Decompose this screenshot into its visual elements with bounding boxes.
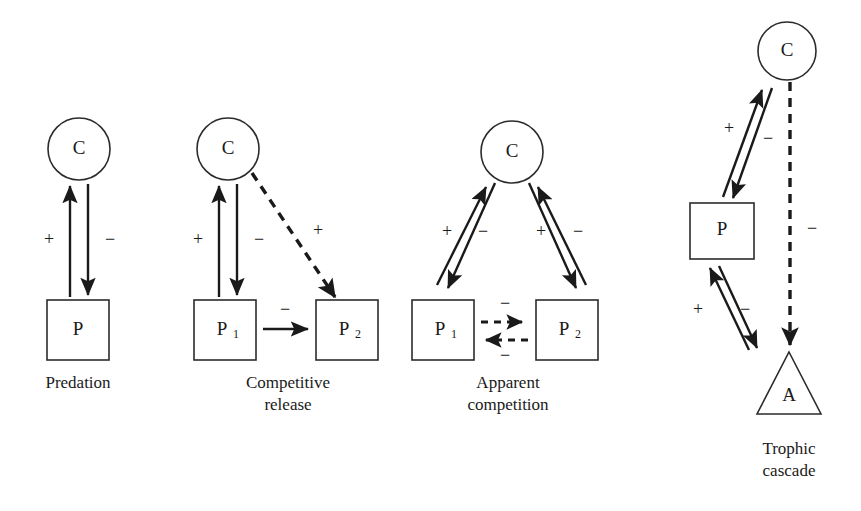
sign-negative-upper-cascade: − [763, 128, 773, 148]
node-consumer-competitive: C [197, 118, 259, 180]
node-label-prey1: P [217, 318, 228, 339]
caption-competitive-release-line2: release [264, 395, 311, 414]
node-subscript-prey1: 1 [233, 327, 239, 341]
node-autotroph-cascade: A [757, 352, 821, 414]
sign-negative-bottom-apparent: − [500, 345, 510, 365]
sign-negative-left-apparent: − [478, 221, 488, 241]
sign-negative-competitive: − [254, 229, 264, 249]
arrow-upright-solid [723, 90, 762, 197]
caption-apparent-competition-line2: competition [467, 395, 549, 414]
node-prey-predation: P [47, 300, 109, 360]
sign-negative-cascade-link: − [807, 218, 817, 238]
node-label-consumer: C [506, 140, 519, 161]
edge-predator-to-consumer-positive [723, 90, 762, 197]
panel-competitive-release: C + − + P 1 − P 2 Competitive release [193, 118, 378, 414]
sign-negative-lower-cascade: − [740, 299, 750, 319]
diagram-canvas: C + − P Predation C + − [0, 0, 861, 511]
sign-positive-lower-cascade: + [693, 299, 703, 319]
node-subscript-prey2: 2 [355, 327, 361, 341]
node-subscript-prey2: 2 [575, 327, 581, 341]
panel-trophic-cascade: C + − − P + − A Trophic cascad [690, 22, 821, 480]
node-prey2-apparent: P 2 [536, 300, 598, 360]
ecology-interaction-figure: C + − P Predation C + − [0, 0, 861, 511]
sign-positive-competitive: + [193, 229, 203, 249]
node-label-prey2: P [339, 318, 350, 339]
node-prey1-apparent: P 1 [412, 300, 474, 360]
edge-predator-to-autotroph-negative [719, 266, 757, 348]
node-subscript-prey1: 1 [451, 327, 457, 341]
sign-negative-right-apparent: − [573, 221, 583, 241]
node-consumer-apparent: C [481, 121, 543, 183]
node-prey2-competitive: P 2 [316, 300, 378, 360]
caption-predation: Predation [45, 373, 111, 392]
panel-predation: C + − P Predation [44, 118, 115, 392]
arrow-downright-solid [719, 266, 757, 348]
node-consumer-cascade: C [758, 22, 816, 80]
panel-apparent-competition: C + − + − P 1 − − [412, 121, 598, 414]
sign-positive-right-apparent: + [536, 221, 546, 241]
node-label-predator: P [717, 218, 728, 239]
sign-negative-competition-competitive: − [280, 299, 290, 319]
node-label-autotroph: A [782, 384, 796, 405]
node-prey1-competitive: P 1 [194, 300, 256, 360]
sign-negative-top-apparent: − [500, 293, 510, 313]
node-consumer-predation: C [48, 118, 110, 180]
node-label-prey2: P [559, 318, 570, 339]
node-label-prey1: P [435, 318, 446, 339]
sign-negative-predation: − [105, 229, 115, 249]
sign-positive-upper-cascade: + [724, 118, 734, 138]
node-label-consumer: C [781, 39, 794, 60]
caption-competitive-release-line1: Competitive [246, 373, 330, 392]
caption-apparent-competition-line1: Apparent [476, 373, 540, 392]
node-label-consumer: C [222, 137, 235, 158]
node-label-prey: P [73, 318, 84, 339]
caption-trophic-cascade-line1: Trophic [762, 439, 816, 458]
sign-positive-predation: + [44, 229, 54, 249]
sign-positive-left-apparent: + [442, 221, 452, 241]
node-label-consumer: C [73, 137, 86, 158]
node-predator-cascade: P [690, 203, 754, 259]
caption-trophic-cascade-line2: cascade [763, 461, 816, 480]
sign-positive-dashed-competitive: + [313, 220, 323, 240]
